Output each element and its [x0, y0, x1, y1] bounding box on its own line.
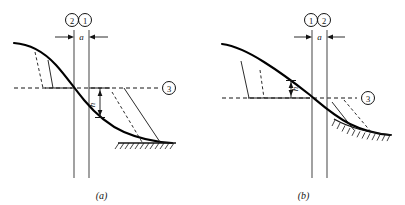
failure-line-dashed-left-a — [35, 52, 43, 88]
panel-b-caption: (b) — [202, 190, 405, 201]
dim-a-label-b: a — [317, 32, 322, 42]
failure-line-dashed-left-b — [260, 70, 264, 98]
slip-surface-curve-a — [14, 43, 172, 143]
dim-h-arrow-top-a — [98, 90, 103, 96]
panel-b: 3 1 2 a — [202, 0, 405, 205]
panel-b-drawing: 3 1 2 a — [202, 0, 405, 205]
ground-hatching-a — [115, 143, 174, 149]
dim-a-arrow-right-a — [89, 35, 95, 40]
panel-a: 3 2 1 a — [0, 0, 203, 205]
dim-h-label-a: h — [87, 102, 97, 107]
failure-line-solid-left-b — [241, 61, 249, 98]
dim-a-arrow-left-a — [68, 35, 74, 40]
figure-root: 3 2 1 a — [0, 0, 405, 205]
label-1-text-b: 1 — [309, 16, 313, 26]
ground-line-b — [334, 119, 392, 135]
dim-a-arrow-left-b — [306, 35, 312, 40]
dim-h-label-b: h — [290, 86, 300, 91]
dim-a-label-a: a — [79, 32, 84, 42]
label-3-text-a: 3 — [167, 84, 171, 94]
failure-line-dashed-right-a — [112, 92, 142, 142]
panel-a-caption: (a) — [0, 190, 203, 201]
label-1-text-a: 1 — [83, 16, 87, 26]
panel-a-drawing: 3 2 1 a — [0, 0, 203, 205]
label-2-text-b: 2 — [322, 16, 326, 26]
label-3-text-b: 3 — [366, 94, 370, 104]
dim-a-arrow-right-b — [327, 35, 333, 40]
label-2-text-a: 2 — [70, 16, 74, 26]
ground-hatching-b — [332, 120, 390, 141]
failure-line-solid-left-a — [48, 60, 53, 88]
